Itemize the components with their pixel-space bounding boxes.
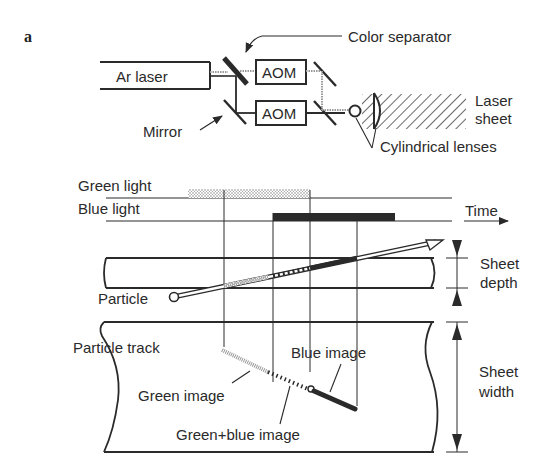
timing-diagram: Green light Blue light Time [78,177,508,221]
particle-image-velocimetry-diagram: a Ar laser AOM AOM [0,0,560,473]
green-blue-image-streak [268,372,308,389]
ar-laser: Ar laser [100,62,210,89]
aom-upper-label: AOM [262,64,296,81]
top-view: Particle track Blue image Green image Gr… [73,322,519,452]
aom-lower-label: AOM [262,105,296,122]
sheet-depth-label-1: Sheet [480,255,520,272]
color-separator-label: Color separator [348,28,451,45]
time-axis-label: Time [465,202,498,219]
blue-image-streak [314,391,355,409]
cylindrical-lens-1 [350,106,361,117]
particle-track-label: Particle track [73,339,160,356]
blue-pulse [273,213,395,221]
green-image-streak [222,350,268,372]
cylindrical-lenses-label: Cylindrical lenses [380,138,497,155]
sheet-width-label-1: Sheet [479,363,519,380]
green-pulse [188,189,310,198]
particle [170,293,179,302]
particle-label: Particle [98,290,148,307]
green-light-label: Green light [78,177,152,194]
sheet-width-label-2: width [478,383,514,400]
optical-setup: Ar laser AOM AOM [100,28,513,155]
laser-sheet-label-1: Laser [475,92,513,109]
aom-lower: AOM [256,101,306,125]
panel-label: a [24,28,32,45]
mirror-label: Mirror [143,123,182,140]
blue-light-label: Blue light [78,200,141,217]
aom-upper: AOM [256,60,306,84]
mirror-upper-right [314,62,336,86]
laser-sheet-label-2: sheet [475,110,513,127]
green-blue-image-label: Green+blue image [176,426,300,443]
green-image-label: Green image [138,387,225,404]
sheet-depth-label-2: depth [480,274,518,291]
side-view: Particle Sheet depth [98,240,520,307]
ar-laser-label: Ar laser [116,68,168,85]
mirror [224,100,246,124]
blue-image-label: Blue image [291,344,366,361]
